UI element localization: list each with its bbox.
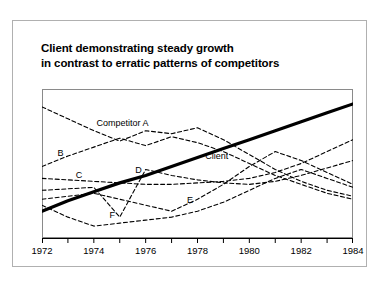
x-axis-tick-label: 1978 <box>187 246 208 256</box>
page-title: Client demonstrating steady growth in co… <box>41 41 351 71</box>
x-axis-tick-label: 1976 <box>135 246 156 256</box>
series-label-client: Client <box>205 152 228 161</box>
x-axis-tick-labels: 1972197419761978198019821984 <box>42 246 353 260</box>
x-axis-tick-label: 1972 <box>31 246 52 256</box>
chart-title-line-1: Client demonstrating steady growth <box>41 41 351 56</box>
series-label-d: D <box>135 166 142 175</box>
x-axis-tick-label: 1984 <box>342 246 363 256</box>
series-line-c <box>42 140 353 185</box>
x-axis-tick-label: 1980 <box>239 246 260 256</box>
series-label-c: C <box>76 171 83 180</box>
series-line-client <box>42 104 353 211</box>
series-line-f <box>42 169 353 226</box>
series-line-d <box>42 161 353 218</box>
series-line-b <box>42 137 353 200</box>
series-label-f: F <box>109 211 115 220</box>
series-label-b: B <box>58 149 64 158</box>
x-axis-tick-label: 1974 <box>83 246 104 256</box>
series-label-e: E <box>187 196 193 205</box>
x-axis-tick-label: 1982 <box>291 246 312 256</box>
plot-area: Competitor ABCDClientEF <box>42 89 353 238</box>
line-chart-svg <box>42 89 353 238</box>
chart-title-line-2: in contrast to erratic patterns of compe… <box>41 56 351 71</box>
series-label-competitor-a: Competitor A <box>96 119 148 128</box>
x-axis-ticks <box>42 238 353 245</box>
figure-card: Client demonstrating steady growth in co… <box>12 20 367 267</box>
